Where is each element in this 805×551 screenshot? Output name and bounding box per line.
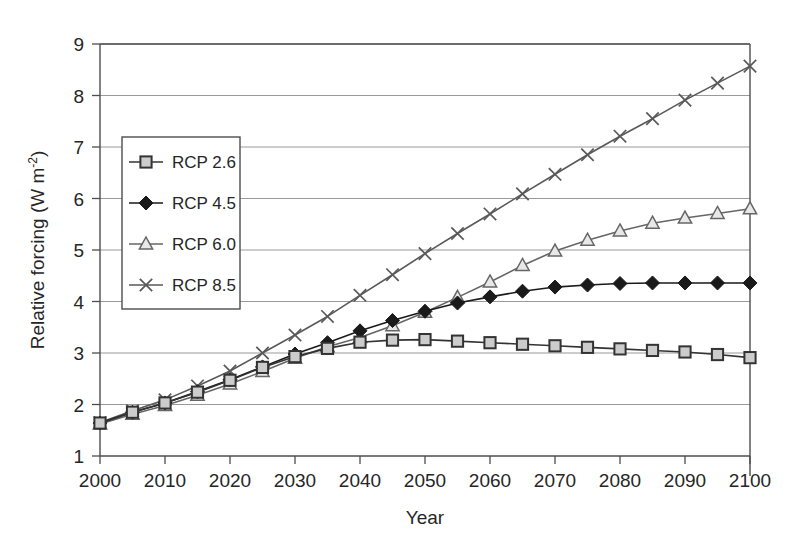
data-point-marker <box>549 340 560 351</box>
data-point-marker <box>484 337 495 348</box>
data-point-marker <box>159 397 170 408</box>
relative-forcing-line-chart: 2000201020202030204020502060207020802090… <box>0 0 805 551</box>
data-point-marker <box>289 351 300 362</box>
data-point-marker <box>354 337 365 348</box>
x-tick-label-2100: 2100 <box>729 470 771 491</box>
data-point-marker <box>679 346 690 357</box>
y-tick-label-5: 5 <box>73 240 84 261</box>
data-point-marker <box>419 334 430 345</box>
legend-label: RCP 4.5 <box>172 194 236 213</box>
x-tick-label-2080: 2080 <box>599 470 641 491</box>
data-point-marker <box>192 387 203 398</box>
y-tick-label-8: 8 <box>73 86 84 107</box>
data-point-marker <box>387 335 398 346</box>
data-point-marker <box>712 349 723 360</box>
legend-marker-open-square <box>140 156 151 167</box>
y-axis-title: Relative forcing (W m-2) <box>26 151 48 350</box>
x-tick-label-2000: 2000 <box>79 470 121 491</box>
data-point-marker <box>452 336 463 347</box>
x-tick-label-2070: 2070 <box>534 470 576 491</box>
x-axis-tick-labels: 2000201020202030204020502060207020802090… <box>79 470 771 491</box>
legend-label: RCP 8.5 <box>172 276 236 295</box>
x-tick-label-2020: 2020 <box>209 470 251 491</box>
x-tick-label-2050: 2050 <box>404 470 446 491</box>
chart-background <box>0 0 805 551</box>
x-tick-label-2090: 2090 <box>664 470 706 491</box>
y-tick-label-6: 6 <box>73 189 84 210</box>
legend-label: RCP 6.0 <box>172 235 236 254</box>
data-point-marker <box>614 343 625 354</box>
data-point-marker <box>517 339 528 350</box>
data-point-marker <box>322 343 333 354</box>
chart-figure: 2000201020202030204020502060207020802090… <box>0 0 805 551</box>
x-tick-label-2030: 2030 <box>274 470 316 491</box>
chart-legend: RCP 2.6RCP 4.5RCP 6.0RCP 8.5 <box>122 137 240 309</box>
data-point-marker <box>257 362 268 373</box>
y-tick-label-2: 2 <box>73 395 84 416</box>
data-point-marker <box>127 407 138 418</box>
data-point-marker <box>744 352 755 363</box>
x-axis-title: Year <box>406 507 445 528</box>
data-point-marker <box>224 375 235 386</box>
data-point-marker <box>94 417 105 428</box>
x-tick-label-2010: 2010 <box>144 470 186 491</box>
data-point-marker <box>582 342 593 353</box>
y-axis-tick-labels: 123456789 <box>73 34 84 467</box>
y-tick-label-4: 4 <box>73 292 84 313</box>
x-tick-label-2060: 2060 <box>469 470 511 491</box>
y-tick-label-7: 7 <box>73 137 84 158</box>
data-point-marker <box>647 345 658 356</box>
x-tick-label-2040: 2040 <box>339 470 381 491</box>
y-tick-label-1: 1 <box>73 446 84 467</box>
legend-label: RCP 2.6 <box>172 153 236 172</box>
y-tick-label-3: 3 <box>73 343 84 364</box>
y-tick-label-9: 9 <box>73 34 84 55</box>
